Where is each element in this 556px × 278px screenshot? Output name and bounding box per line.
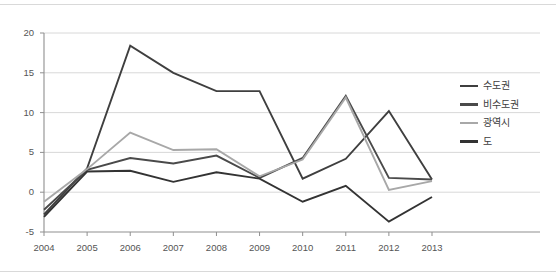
legend-item-label: 수도권: [483, 80, 510, 92]
series-line: [44, 46, 432, 215]
legend-color-swatch: [460, 85, 478, 88]
legend-color-swatch: [460, 122, 478, 125]
y-axis-tick-label: 0: [8, 186, 34, 197]
x-axis-tick-label: 2013: [412, 242, 452, 253]
legend: 수도권비수도권광역시도: [460, 80, 519, 148]
y-axis-tick-label: 20: [8, 27, 34, 38]
x-axis-tick-label: 2009: [240, 242, 280, 253]
line-chart: 20151050-5 20042005200620072008200920102…: [0, 0, 556, 278]
legend-color-swatch: [460, 140, 478, 143]
legend-item-label: 광역시: [483, 117, 510, 129]
y-axis-tick-label: 15: [8, 67, 34, 78]
legend-color-swatch: [460, 103, 478, 106]
x-axis-tick-label: 2004: [24, 242, 64, 253]
x-axis-tick-label: 2005: [67, 242, 107, 253]
y-axis-tick-label: 5: [8, 146, 34, 157]
x-axis-tick-label: 2006: [110, 242, 150, 253]
legend-item-label: 비수도권: [483, 99, 519, 111]
legend-item[interactable]: 비수도권: [460, 99, 519, 111]
x-axis-tick-label: 2010: [283, 242, 323, 253]
legend-item-label: 도: [483, 136, 492, 148]
y-axis-tick-label: 10: [8, 107, 34, 118]
legend-item[interactable]: 도: [460, 136, 519, 148]
legend-item[interactable]: 수도권: [460, 80, 519, 92]
x-axis-tick-label: 2008: [196, 242, 236, 253]
legend-item[interactable]: 광역시: [460, 117, 519, 129]
x-axis-tick-label: 2011: [326, 242, 366, 253]
y-axis-tick-label: -5: [8, 226, 34, 237]
x-axis-tick-label: 2007: [153, 242, 193, 253]
series-line: [44, 171, 432, 222]
series-lines: [44, 46, 432, 222]
x-axis-tick-label: 2012: [369, 242, 409, 253]
